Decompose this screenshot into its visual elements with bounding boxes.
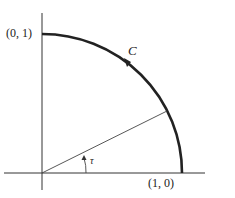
angle-label: τ — [90, 155, 94, 166]
point-right-label: (1, 0) — [148, 176, 174, 191]
angle-arc — [84, 158, 86, 173]
radius-line — [42, 111, 167, 173]
angle-arrowhead-icon — [82, 155, 87, 160]
curve-c — [42, 34, 182, 173]
curve-label: C — [128, 43, 137, 59]
quarter-circle-diagram — [0, 0, 235, 198]
point-top-label: (0, 1) — [6, 26, 32, 41]
